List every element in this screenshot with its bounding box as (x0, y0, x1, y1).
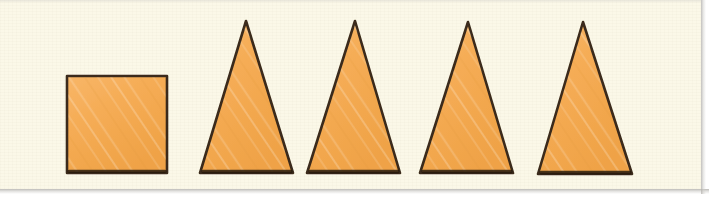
shape-triangle-4 (538, 22, 632, 174)
shape-triangle-2 (307, 21, 400, 173)
figure-root (0, 0, 716, 206)
shapes-layer (0, 0, 716, 206)
square-pencil-texture (68, 77, 165, 171)
triangle-3-pencil-texture (422, 25, 511, 172)
shape-triangle-1 (200, 21, 293, 173)
shapes-svg (0, 0, 716, 206)
triangle-4-pencil-texture (540, 25, 630, 173)
triangle-1-pencil-texture (202, 24, 291, 172)
shape-square (67, 76, 167, 173)
triangle-2-pencil-texture (309, 24, 398, 172)
shape-triangle-3 (420, 22, 513, 173)
